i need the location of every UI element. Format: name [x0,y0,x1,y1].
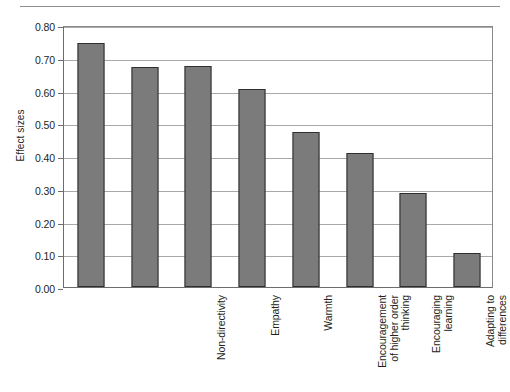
bar-slot [172,27,226,287]
bar[interactable] [131,67,158,287]
bar[interactable] [454,253,481,287]
y-axis-tick-mark [58,93,63,94]
plot-area: 0.800.700.600.500.400.300.200.100.00 [63,26,493,288]
y-axis-tick-label: 0.00 [35,283,55,295]
y-axis-tick-mark [58,125,63,126]
y-axis-tick-label: 0.10 [35,250,55,262]
y-axis-tick-label: 0.80 [35,21,55,33]
y-axis-title: Effect sizes [15,86,26,186]
bar-slot [118,27,172,287]
y-axis-tick-label: 0.70 [35,54,55,66]
bar-slot [64,27,118,287]
bar[interactable] [185,66,212,287]
bar[interactable] [346,153,373,287]
bar[interactable] [292,132,319,287]
y-axis-tick-label: 0.40 [35,152,55,164]
bars-group [64,27,492,287]
bar-slot [279,27,333,287]
y-axis-tick-label: 0.60 [35,87,55,99]
y-axis-tick-mark [58,158,63,159]
x-axis-label: Encouraging learning [431,295,454,392]
bar-slot [440,27,494,287]
bar[interactable] [400,193,427,287]
x-axis-label: Non-directivity [216,295,228,392]
x-axis-label: Encouragement of higher order thinking [377,295,412,392]
top-divider-rule [20,6,500,7]
bar-slot [225,27,279,287]
y-axis-tick-mark [58,224,63,225]
bar-slot [387,27,441,287]
y-axis-tick-label: 0.50 [35,119,55,131]
y-axis-tick-mark [58,191,63,192]
bar-chart-figure: Effect sizes 0.800.700.600.500.400.300.2… [0,0,510,392]
y-axis-tick-mark [58,256,63,257]
bar[interactable] [239,89,266,287]
y-axis-tick-label: 0.30 [35,185,55,197]
x-axis-label: Adapting to differences [485,295,508,392]
bar-slot [333,27,387,287]
y-axis-tick-label: 0.20 [35,218,55,230]
bar[interactable] [77,43,104,287]
y-axis-tick-mark [58,27,63,28]
x-axis-label: Empathy [270,295,282,392]
x-axis-label: Warmth [323,295,335,392]
y-axis-tick-mark [58,60,63,61]
y-axis-tick-mark [58,289,63,290]
